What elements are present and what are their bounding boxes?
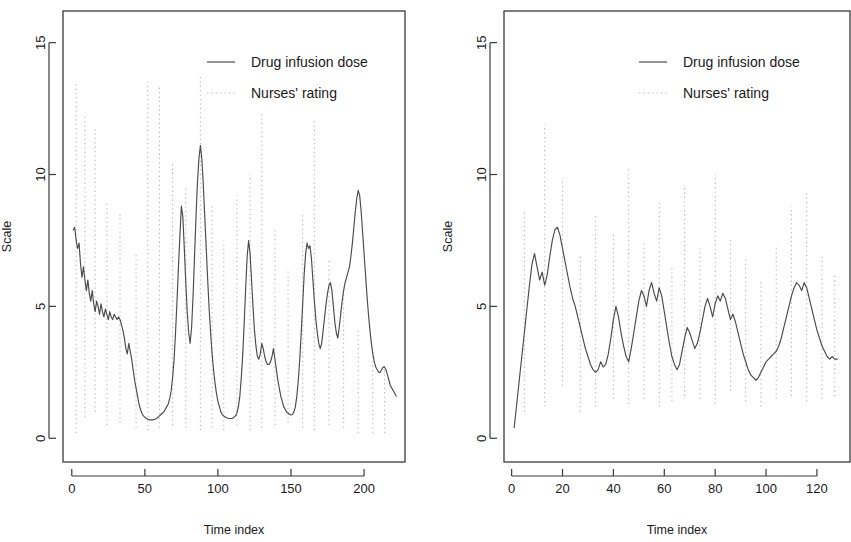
x-axis-tick-label: 0 [508,481,515,496]
legend-label-drug-infusion-dose: Drug infusion dose [683,54,800,70]
chart-svg-left: 051015050100150200Time indexScaleDrug in… [0,0,425,542]
legend: Drug infusion doseNurses' rating [207,54,368,101]
y-axis-tick-label: 10 [34,167,49,181]
y-axis-tick-label: 10 [474,167,489,181]
series-nurses-rating [524,124,834,411]
x-axis-tick-label: 60 [657,481,671,496]
series-drug-infusion-dose [73,146,396,420]
x-axis-tick-label: 20 [555,481,569,496]
legend: Drug infusion doseNurses' rating [639,54,800,101]
x-axis-tick-label: 0 [68,481,75,496]
x-axis-tick-label: 40 [606,481,620,496]
x-axis-tick-label: 200 [353,481,375,496]
x-axis-tick-label: 120 [806,481,828,496]
x-axis-title: Time index [646,523,707,537]
chart-panel-left: 051015050100150200Time indexScaleDrug in… [0,0,426,542]
plot-frame [63,11,405,462]
legend-label-drug-infusion-dose: Drug infusion dose [251,54,368,70]
x-axis-tick-label: 150 [280,481,302,496]
chart-panel-right: 051015020406080100120Time indexScaleDrug… [426,0,851,542]
legend-label-nurses-rating: Nurses' rating [251,85,337,101]
y-axis-tick-label: 5 [474,303,489,310]
chart-svg-right: 051015020406080100120Time indexScaleDrug… [426,0,851,542]
x-axis-tick-label: 80 [707,481,721,496]
y-axis-tick-label: 0 [34,435,49,442]
y-axis-title: Scale [0,221,14,252]
y-axis-tick-label: 5 [34,303,49,310]
legend-label-nurses-rating: Nurses' rating [683,85,769,101]
x-axis-tick-label: 100 [755,481,777,496]
series-nurses-rating [76,77,384,433]
plot-frame [504,11,850,462]
y-axis-tick-label: 15 [34,35,49,49]
y-axis-title: Scale [441,221,455,252]
y-axis-tick-label: 15 [474,35,489,49]
x-axis-title: Time index [204,523,265,537]
y-axis-tick-label: 0 [474,435,489,442]
x-axis-tick-label: 50 [138,481,152,496]
x-axis-tick-label: 100 [207,481,229,496]
two-panel-figure: 051015050100150200Time indexScaleDrug in… [0,0,851,542]
